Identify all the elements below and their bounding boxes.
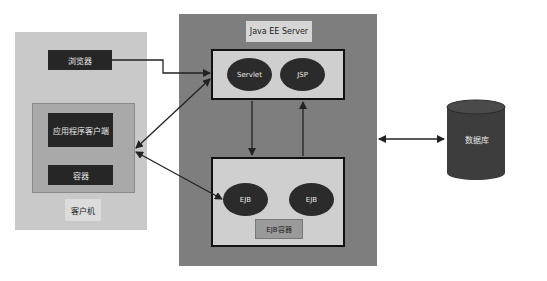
database-label: 数据库	[448, 134, 506, 145]
